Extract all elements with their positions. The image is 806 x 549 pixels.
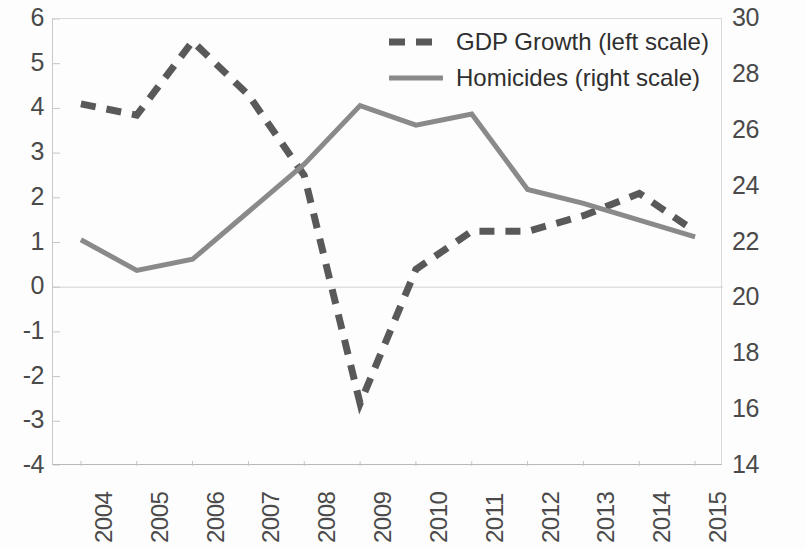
chart-legend: GDP Growth (left scale)Homicides (right … bbox=[388, 24, 708, 96]
right-axis-tick-label: 18 bbox=[732, 340, 759, 365]
series-line-homicides bbox=[81, 106, 695, 271]
left-axis-tick-label: -2 bbox=[23, 363, 44, 388]
x-axis-tick-label: 2015 bbox=[706, 492, 730, 543]
legend-label: GDP Growth (left scale) bbox=[456, 29, 709, 55]
left-axis-tick-label: 1 bbox=[31, 229, 44, 254]
x-axis-tick-label: 2011 bbox=[483, 493, 507, 543]
left-axis-tick-label: -1 bbox=[23, 318, 44, 343]
x-axis-tick-label: 2014 bbox=[650, 492, 674, 543]
right-axis-tick-label: 28 bbox=[732, 61, 759, 86]
left-axis: 6543210-1-2-3-4 bbox=[0, 0, 52, 549]
legend-item[interactable]: GDP Growth (left scale) bbox=[388, 24, 708, 60]
left-axis-tick-label: 6 bbox=[31, 5, 44, 30]
left-axis-tick-label: 0 bbox=[31, 273, 44, 298]
x-axis: 2004200520062007200820092010201120122013… bbox=[52, 465, 722, 549]
left-axis-tick-label: 2 bbox=[31, 184, 44, 209]
x-axis-tick-label: 2008 bbox=[315, 492, 339, 543]
right-axis: 302826242220181614 bbox=[722, 0, 806, 549]
legend-item[interactable]: Homicides (right scale) bbox=[388, 60, 708, 96]
left-axis-tick-label: 5 bbox=[31, 50, 44, 75]
left-axis-tick-label: -3 bbox=[23, 407, 44, 432]
right-axis-tick-label: 30 bbox=[732, 5, 759, 30]
legend-line-icon bbox=[388, 69, 444, 87]
chart-container: 6543210-1-2-3-4 302826242220181614 GDP G… bbox=[0, 0, 806, 549]
right-axis-tick-label: 16 bbox=[732, 396, 759, 421]
left-axis-tick-label: 4 bbox=[31, 94, 44, 119]
right-axis-tick-label: 14 bbox=[732, 452, 759, 477]
left-axis-tick-label: 3 bbox=[31, 139, 44, 164]
x-axis-tick-label: 2009 bbox=[371, 492, 395, 543]
x-axis-tick-label: 2006 bbox=[204, 492, 228, 543]
x-axis-tick-label: 2012 bbox=[539, 492, 563, 543]
legend-line-icon bbox=[388, 33, 444, 51]
x-axis-tick-label: 2013 bbox=[594, 492, 618, 543]
x-axis-tick-label: 2004 bbox=[92, 492, 116, 543]
right-axis-tick-label: 20 bbox=[732, 284, 759, 309]
x-axis-tick-label: 2005 bbox=[148, 492, 172, 543]
left-axis-tick-label: -4 bbox=[23, 452, 44, 477]
right-axis-tick-label: 26 bbox=[732, 117, 759, 142]
right-axis-tick-label: 24 bbox=[732, 173, 759, 198]
right-axis-tick-label: 22 bbox=[732, 229, 759, 254]
legend-label: Homicides (right scale) bbox=[456, 65, 700, 91]
x-axis-tick-label: 2010 bbox=[427, 492, 451, 543]
x-axis-tick-label: 2007 bbox=[259, 492, 283, 543]
